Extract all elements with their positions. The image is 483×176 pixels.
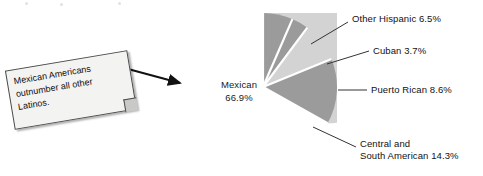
slice-label-puerto-rican: Puerto Rican 8.6% (371, 84, 452, 96)
slice-label-other-hispanic-text: Other Hispanic 6.5% (352, 13, 441, 24)
pie-center-label: Mexican 66.9% (203, 79, 275, 104)
arrow-shaft (128, 69, 180, 83)
center-label-value: 66.9% (203, 92, 275, 105)
slice-label-central-south-american: Central and South American 14.3% (360, 138, 459, 162)
slice-label-puerto-rican-text: Puerto Rican 8.6% (371, 84, 452, 95)
center-label-name: Mexican (203, 79, 275, 92)
slice-label-other-hispanic: Other Hispanic 6.5% (352, 13, 441, 25)
annotation-note-folded-corner-icon (123, 97, 138, 112)
scan-artifact-row (0, 0, 483, 10)
slice-label-cuban: Cuban 3.7% (373, 45, 426, 57)
annotation-note: Mexican Americans outnumber all other La… (5, 50, 137, 130)
pie-chart-figure: Mexican 66.9% Other Hispanic 6.5% Cuban … (0, 0, 483, 176)
slice-label-central-south-american-line1: Central and (360, 138, 459, 150)
scan-speck (118, 2, 121, 5)
annotation-arrow-icon (126, 58, 192, 98)
slice-label-central-south-american-line2: South American 14.3% (360, 150, 459, 162)
scan-speck (25, 2, 28, 5)
scan-speck (60, 3, 63, 6)
slice-label-cuban-text: Cuban 3.7% (373, 45, 426, 56)
